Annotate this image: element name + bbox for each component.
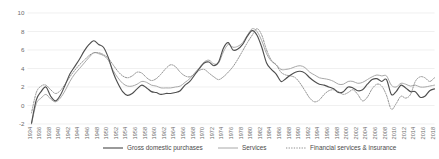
x-tick-label: 1944 bbox=[74, 127, 80, 139]
x-tick-label: 1966 bbox=[180, 127, 186, 139]
y-tick-label: -2 bbox=[19, 120, 25, 127]
x-tick-label: 2010 bbox=[391, 127, 397, 139]
x-tick-label: 1988 bbox=[286, 127, 292, 139]
x-tick-label: 1984 bbox=[266, 127, 272, 139]
x-tick-label: 2014 bbox=[410, 127, 416, 139]
x-tick-label: 2008 bbox=[382, 127, 388, 139]
x-tick-label: 1948 bbox=[94, 127, 100, 139]
x-tick-label: 1962 bbox=[161, 127, 167, 139]
x-tick-label: 1956 bbox=[132, 127, 138, 139]
x-tick-label: 1968 bbox=[190, 127, 196, 139]
x-tick-label: 1950 bbox=[103, 127, 109, 139]
x-tick-label: 1942 bbox=[65, 127, 71, 139]
y-axis-tick-labels: -20246810 bbox=[18, 9, 25, 127]
x-tick-label: 2002 bbox=[353, 127, 359, 139]
legend-label-1: Gross domestic purchases bbox=[127, 144, 203, 152]
x-tick-label: 1964 bbox=[170, 127, 176, 139]
x-tick-label: 1976 bbox=[228, 127, 234, 139]
x-tick-label: 1974 bbox=[218, 127, 224, 139]
series-gross-domestic-purchases bbox=[32, 31, 435, 124]
x-tick-label: 2000 bbox=[343, 127, 349, 139]
y-tick-label: 8 bbox=[21, 28, 25, 35]
data-series-group bbox=[32, 29, 435, 124]
x-tick-label: 2006 bbox=[372, 127, 378, 139]
series-services bbox=[32, 29, 435, 124]
line-chart: -20246810 193419361938194019421944194619… bbox=[0, 0, 439, 159]
x-tick-label: 1960 bbox=[151, 127, 157, 139]
y-tick-label: 10 bbox=[18, 9, 25, 16]
x-tick-label: 1936 bbox=[36, 127, 42, 139]
x-tick-label: 1954 bbox=[122, 127, 128, 139]
x-tick-label: 1940 bbox=[55, 127, 61, 139]
y-tick-label: 0 bbox=[21, 102, 25, 109]
chart-legend: Gross domestic purchasesServicesFinancia… bbox=[103, 144, 397, 152]
x-tick-label: 2004 bbox=[362, 127, 368, 139]
x-tick-label: 2018 bbox=[430, 127, 436, 139]
x-tick-label: 2016 bbox=[420, 127, 426, 139]
x-tick-label: 1938 bbox=[46, 127, 52, 139]
x-tick-label: 1980 bbox=[247, 127, 253, 139]
x-tick-label: 2012 bbox=[401, 127, 407, 139]
chart-container: -20246810 193419361938194019421944194619… bbox=[0, 0, 439, 159]
x-tick-label: 1996 bbox=[324, 127, 330, 139]
x-tick-label: 1952 bbox=[113, 127, 119, 139]
legend-label-3: Financial services & insurance bbox=[310, 144, 397, 151]
x-tick-label: 1998 bbox=[334, 127, 340, 139]
x-tick-label: 1990 bbox=[295, 127, 301, 139]
y-tick-label: 2 bbox=[21, 83, 25, 90]
x-tick-label: 1934 bbox=[27, 127, 33, 139]
x-tick-label: 1972 bbox=[209, 127, 215, 139]
x-axis-tick-labels: 1934193619381940194219441946194819501952… bbox=[27, 127, 436, 139]
y-tick-label: 4 bbox=[21, 65, 25, 72]
x-tick-label: 1994 bbox=[314, 127, 320, 139]
x-tick-label: 1992 bbox=[305, 127, 311, 139]
x-tick-label: 1946 bbox=[84, 127, 90, 139]
x-tick-label: 1958 bbox=[142, 127, 148, 139]
x-tick-label: 1982 bbox=[257, 127, 263, 139]
y-tick-label: 6 bbox=[21, 46, 25, 53]
x-tick-label: 1978 bbox=[238, 127, 244, 139]
x-tick-label: 1970 bbox=[199, 127, 205, 139]
x-tick-label: 1986 bbox=[276, 127, 282, 139]
legend-label-2: Services bbox=[242, 144, 267, 151]
